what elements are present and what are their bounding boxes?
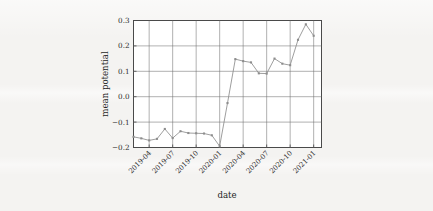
data-point-marker — [219, 145, 221, 147]
y-tick-label: 0.0 — [118, 92, 130, 101]
data-point-marker — [266, 73, 268, 75]
x-axis-label: date — [217, 190, 236, 200]
data-point-marker — [258, 72, 260, 74]
data-point-marker — [226, 102, 228, 104]
data-point-marker — [281, 63, 283, 65]
x-tick-label: 2021-01 — [292, 149, 318, 175]
y-tick-label: 0.2 — [118, 41, 129, 50]
x-tick-label: 2019-04 — [127, 149, 153, 175]
data-point-marker — [187, 132, 189, 134]
data-point-marker — [313, 35, 315, 37]
x-tick-label: 2020-07 — [245, 149, 271, 175]
data-point-marker — [305, 23, 307, 25]
x-tick-label: 2020-10 — [268, 149, 294, 175]
data-point-marker — [148, 139, 150, 141]
x-axis-tick-labels: 2019-042019-072019-102020-012020-042020-… — [127, 149, 317, 175]
data-point-marker — [203, 132, 205, 134]
chart-figure: 0.30.20.10.0−0.1−0.2 2019-042019-072019-… — [0, 0, 433, 211]
data-point-marker — [242, 60, 244, 62]
data-point-marker — [156, 138, 158, 140]
x-tick-label: 2019-07 — [151, 149, 177, 175]
data-point-marker — [179, 130, 181, 132]
data-point-marker — [172, 137, 174, 139]
plot-area-frame — [134, 21, 322, 148]
data-point-marker — [195, 132, 197, 134]
data-point-marker — [273, 58, 275, 60]
y-tick-label: 0.3 — [118, 16, 130, 25]
data-point-marker — [164, 128, 166, 130]
chart-svg: 0.30.20.10.0−0.1−0.2 2019-042019-072019-… — [0, 0, 433, 211]
data-point-marker — [132, 136, 134, 138]
x-tick-label: 2019-10 — [174, 149, 200, 175]
data-point-marker — [234, 58, 236, 60]
data-point-marker — [250, 61, 252, 63]
data-point-marker — [211, 134, 213, 136]
data-point-marker — [289, 64, 291, 66]
y-axis-tick-labels: 0.30.20.10.0−0.1−0.2 — [112, 16, 130, 152]
data-point-marker — [140, 137, 142, 139]
x-tick-label: 2020-04 — [221, 149, 247, 175]
y-tick-label: −0.2 — [112, 143, 129, 152]
y-tick-label: −0.1 — [112, 118, 129, 127]
data-point-marker — [297, 39, 299, 41]
y-axis-label: mean potential — [100, 51, 110, 117]
x-tick-label: 2020-01 — [198, 149, 224, 175]
y-tick-label: 0.1 — [118, 67, 129, 76]
